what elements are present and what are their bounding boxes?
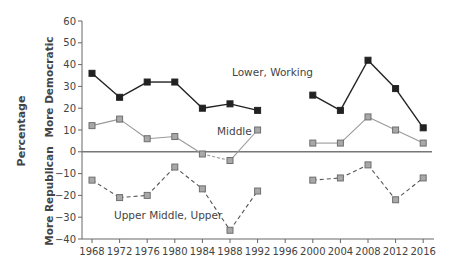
series-segment (368, 117, 396, 130)
y-tick-label: 40 (63, 59, 76, 70)
data-point-marker (144, 79, 150, 85)
data-point-marker (337, 140, 343, 146)
data-point-marker (89, 177, 95, 183)
data-point-marker (172, 79, 178, 85)
data-point-marker (310, 140, 316, 146)
series-segment (92, 180, 120, 197)
series-segment (368, 60, 396, 88)
data-point-marker (117, 94, 123, 100)
x-tick-label: 1984 (190, 246, 215, 257)
data-point-marker (172, 134, 178, 140)
x-tick-label: 2016 (410, 246, 435, 257)
series-segment (313, 178, 341, 180)
series-segment (230, 191, 258, 230)
x-tick-label: 1980 (162, 246, 187, 257)
series-segment (92, 119, 120, 126)
data-point-marker (310, 177, 316, 183)
series-segment (175, 82, 203, 108)
data-point-marker (172, 164, 178, 170)
data-point-marker (144, 136, 150, 142)
y-tick-label: 30 (63, 81, 76, 92)
data-point-marker (365, 162, 371, 168)
y-axis-label-more-democratic: More Democratic (43, 37, 55, 138)
data-point-marker (117, 195, 123, 201)
series-segment (396, 178, 424, 200)
data-point-marker (255, 127, 261, 133)
x-tick-label: 1996 (272, 246, 297, 257)
y-tick-label: 10 (63, 125, 76, 136)
y-axis-label-more-republican: More Republican (43, 146, 55, 245)
series-label-lower-working: Lower, Working (232, 66, 313, 78)
series-segment (202, 104, 230, 108)
data-point-marker (420, 125, 426, 131)
series-segment (368, 165, 396, 200)
data-point-marker (420, 140, 426, 146)
x-tick-label: 2012 (383, 246, 408, 257)
y-axis-label: Percentage (15, 96, 28, 167)
data-point-marker (227, 227, 233, 233)
x-tick-label: 1968 (79, 246, 104, 257)
data-point-marker (393, 127, 399, 133)
data-point-marker (420, 175, 426, 181)
series-segment (120, 82, 148, 97)
x-tick-label: 1988 (217, 246, 242, 257)
data-point-marker (255, 188, 261, 194)
y-tick-label: −20 (55, 190, 76, 201)
x-tick-label: 1976 (134, 246, 159, 257)
y-tick-label: −30 (55, 212, 76, 223)
series-segment (340, 117, 368, 143)
series-segment (202, 154, 230, 161)
data-point-marker (310, 92, 316, 98)
series-label-middle: Middle (217, 125, 252, 137)
chart: 6050403020100−10−20−30−40196819721976198… (0, 0, 458, 277)
x-tick-label: 2008 (355, 246, 380, 257)
series-segment (120, 195, 148, 197)
series-segment (120, 119, 148, 139)
data-point-marker (227, 101, 233, 107)
x-tick-label: 1972 (107, 246, 132, 257)
y-tick-label: −40 (55, 234, 76, 245)
data-point-marker (144, 192, 150, 198)
data-point-marker (337, 175, 343, 181)
series-segment (175, 167, 203, 189)
y-tick-label: 20 (63, 103, 76, 114)
y-tick-label: 60 (63, 16, 76, 27)
data-point-marker (255, 107, 261, 113)
data-point-marker (117, 116, 123, 122)
series-segment (92, 73, 120, 97)
y-tick-label: 0 (70, 146, 76, 157)
x-tick-label: 2000 (300, 246, 325, 257)
chart-svg: 6050403020100−10−20−30−40196819721976198… (0, 0, 458, 277)
series-lines (89, 57, 426, 233)
y-tick-label: 50 (63, 37, 76, 48)
series-segment (230, 104, 258, 111)
data-point-marker (337, 107, 343, 113)
data-point-marker (393, 197, 399, 203)
x-tick-label: 1992 (245, 246, 270, 257)
series-segment (396, 89, 424, 128)
y-tick-label: −10 (55, 168, 76, 179)
data-point-marker (199, 186, 205, 192)
series-segment (396, 130, 424, 143)
series-segment (340, 60, 368, 110)
series-segment (340, 165, 368, 178)
data-point-marker (89, 123, 95, 129)
series-segment (147, 167, 175, 195)
series-label-upper-middle-upper: Upper Middle, Upper (114, 209, 223, 221)
data-point-marker (199, 151, 205, 157)
data-point-marker (393, 86, 399, 92)
data-point-marker (365, 57, 371, 63)
data-point-marker (199, 105, 205, 111)
data-point-marker (227, 158, 233, 164)
series-segment (313, 95, 341, 110)
data-point-marker (365, 114, 371, 120)
x-tick-label: 2004 (328, 246, 353, 257)
data-point-marker (89, 70, 95, 76)
series-segment (147, 137, 175, 139)
